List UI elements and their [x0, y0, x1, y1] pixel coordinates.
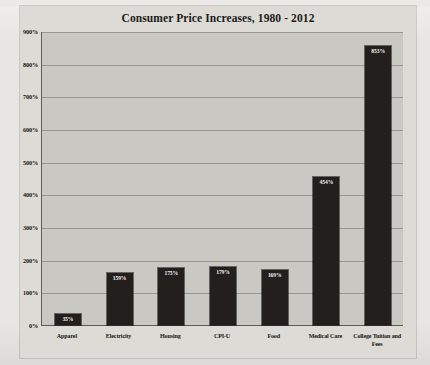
bar-value-label: 169%	[268, 272, 282, 278]
y-axis-tick-label: 200%	[4, 257, 38, 264]
y-axis-tick-label: 800%	[4, 61, 38, 68]
bar[interactable]: 35%	[55, 314, 81, 325]
bar-slot: 35%	[42, 32, 94, 325]
bar-slot: 179%	[197, 32, 249, 325]
page-background: Consumer Price Increases, 1980 - 2012 35…	[0, 0, 430, 365]
y-axis-tick-label: 900%	[4, 28, 38, 35]
bar[interactable]: 454%	[313, 177, 339, 325]
bar-value-label: 853%	[371, 48, 385, 54]
x-axis-category-label: Apparel	[41, 332, 93, 340]
bar-value-label: 175%	[164, 270, 178, 276]
chart-title: Consumer Price Increases, 1980 - 2012	[20, 12, 416, 24]
bar[interactable]: 169%	[262, 270, 288, 325]
chart-container: Consumer Price Increases, 1980 - 2012 35…	[20, 6, 416, 358]
bar-value-label: 454%	[320, 179, 334, 185]
y-axis-tick-label: 500%	[4, 159, 38, 166]
x-axis-category-label: Medical Care	[300, 332, 352, 340]
bar[interactable]: 175%	[158, 268, 184, 325]
bar-slot: 853%	[352, 32, 404, 325]
y-axis-tick-label: 700%	[4, 93, 38, 100]
x-axis-category-label: CPI-U	[196, 332, 248, 340]
bar-slot: 454%	[301, 32, 353, 325]
y-axis: 900%800%700%600%500%400%300%200%100%0%	[4, 32, 38, 326]
x-axis-category-label: Electricity	[93, 332, 145, 340]
bar-slot: 175%	[145, 32, 197, 325]
x-axis-category-label: Housing	[144, 332, 196, 340]
x-axis-category-label: College Tuition and Fees	[351, 332, 403, 348]
y-axis-tick-label: 100%	[4, 289, 38, 296]
plot-area: 35%159%175%179%169%454%853%	[41, 32, 403, 326]
y-axis-tick-label: 300%	[4, 224, 38, 231]
bar[interactable]: 159%	[107, 273, 133, 325]
bar-value-label: 159%	[113, 275, 127, 281]
bar-slot: 159%	[94, 32, 146, 325]
y-axis-tick-label: 400%	[4, 191, 38, 198]
bar[interactable]: 853%	[365, 46, 391, 325]
bar-value-label: 179%	[216, 269, 230, 275]
bar[interactable]: 179%	[210, 267, 236, 325]
x-axis-category-label: Food	[248, 332, 300, 340]
bar-value-label: 35%	[62, 316, 73, 322]
y-axis-tick-label: 600%	[4, 126, 38, 133]
y-axis-tick-label: 0%	[4, 322, 38, 329]
bar-slot: 169%	[249, 32, 301, 325]
plot-wrapper: 35%159%175%179%169%454%853% 900%800%700%…	[41, 32, 403, 326]
